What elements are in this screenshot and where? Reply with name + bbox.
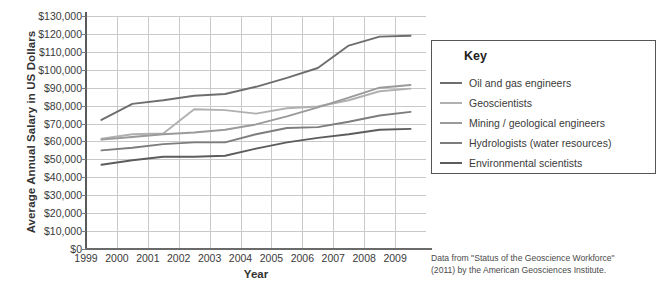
source-note-line1: Data from "Status of the Geoscience Work… <box>431 252 666 264</box>
legend-title: Key <box>464 49 487 63</box>
y-axis-tick-mark <box>82 159 86 160</box>
y-axis-tick-mark <box>82 88 86 89</box>
x-axis-title: Year <box>86 268 426 280</box>
legend-swatch-icon <box>440 82 462 84</box>
legend-swatch-icon <box>440 122 462 124</box>
y-axis-tick-mark <box>82 177 86 178</box>
y-axis-tick-mark <box>82 124 86 125</box>
y-axis-tick-mark <box>82 195 86 196</box>
legend-swatch-icon <box>440 142 462 144</box>
legend-label: Hydrologists (water resources) <box>469 137 611 149</box>
y-axis-tick-label: $130,000 <box>0 10 82 22</box>
legend-item-0[interactable]: Oil and gas engineers <box>440 75 655 91</box>
y-axis-tick-mark <box>82 70 86 71</box>
legend-label: Geoscientists <box>469 97 532 109</box>
chart-container: Average Annual Salary in US Dollars $130… <box>0 0 666 296</box>
y-axis-tick-mark <box>82 52 86 53</box>
series-lines <box>86 16 426 249</box>
legend-label: Mining / geological engineers <box>469 117 605 129</box>
y-axis-tick-mark <box>82 249 86 250</box>
y-axis-tick-mark <box>82 141 86 142</box>
y-axis-tick-label: $80,000 <box>0 100 82 112</box>
y-axis-tick-label: $90,000 <box>0 82 82 94</box>
y-axis-tick-label: $120,000 <box>0 28 82 40</box>
y-axis-tick-label: $10,000 <box>0 225 82 237</box>
y-axis-title: Average Annual Salary in US Dollars <box>25 7 37 257</box>
y-axis-tick-mark <box>82 231 86 232</box>
y-axis-tick-label: $70,000 <box>0 118 82 130</box>
x-axis-tick-label: 2009 <box>372 252 418 264</box>
legend-swatch-icon <box>440 102 462 104</box>
plot-area: $130,000$120,000$110,000$100,000$90,000$… <box>86 16 426 249</box>
legend: Key Oil and gas engineersGeoscientistsMi… <box>431 40 656 174</box>
y-axis-tick-mark <box>82 34 86 35</box>
legend-swatch-icon <box>440 162 462 164</box>
y-axis-tick-label: $110,000 <box>0 46 82 58</box>
series-line-0 <box>101 36 410 120</box>
legend-item-1[interactable]: Geoscientists <box>440 95 655 111</box>
y-axis-tick-label: $50,000 <box>0 153 82 165</box>
y-axis-tick-mark <box>82 213 86 214</box>
y-axis-tick-label: $30,000 <box>0 189 82 201</box>
y-axis-tick-label: $60,000 <box>0 135 82 147</box>
legend-label: Environmental scientists <box>469 157 582 169</box>
y-axis-tick-mark <box>82 16 86 17</box>
legend-item-2[interactable]: Mining / geological engineers <box>440 115 655 131</box>
source-note-line2: (2011) by the American Geosciences Insti… <box>431 264 666 276</box>
y-axis-tick-mark <box>82 106 86 107</box>
source-note: Data from "Status of the Geoscience Work… <box>431 252 666 277</box>
y-axis-tick-label: $40,000 <box>0 171 82 183</box>
y-axis-tick-label: $20,000 <box>0 207 82 219</box>
legend-item-3[interactable]: Hydrologists (water resources) <box>440 135 655 151</box>
legend-item-4[interactable]: Environmental scientists <box>440 155 655 171</box>
legend-label: Oil and gas engineers <box>469 77 571 89</box>
y-axis-tick-label: $100,000 <box>0 64 82 76</box>
